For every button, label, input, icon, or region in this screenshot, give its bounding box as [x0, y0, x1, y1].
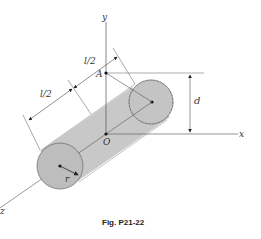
y-axis-label: y [101, 12, 108, 22]
figure-canvas: y x z A O l/2 l/2 d r Fig. P21-22 [0, 0, 261, 239]
offset-d-label: d [194, 95, 200, 106]
point-O [104, 132, 107, 135]
point-A [104, 71, 107, 74]
cylinder-diagram: y x z A O l/2 l/2 d r Fig. P21-22 [0, 0, 261, 239]
x-axis-label: x [239, 129, 244, 139]
half-length-label-upper: l/2 [84, 56, 96, 66]
figure-caption: Fig. P21-22 [102, 218, 145, 227]
radius-label: r [65, 174, 70, 184]
origin-label: O [103, 137, 111, 147]
half-length-label-lower: l/2 [40, 89, 52, 99]
z-axis-label: z [0, 206, 5, 216]
point-A-label: A [95, 69, 103, 79]
